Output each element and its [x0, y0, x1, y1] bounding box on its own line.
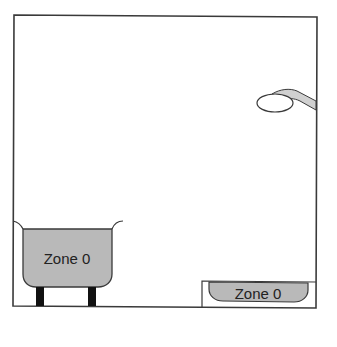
shower-tray-zone-label: Zone 0 [235, 285, 282, 302]
bathtub-leg-left [36, 287, 44, 306]
bathtub-leg-right [88, 287, 96, 306]
bathtub-zone-label: Zone 0 [44, 250, 91, 267]
bathroom-zones-diagram: Zone 0 Zone 0 [0, 0, 337, 347]
